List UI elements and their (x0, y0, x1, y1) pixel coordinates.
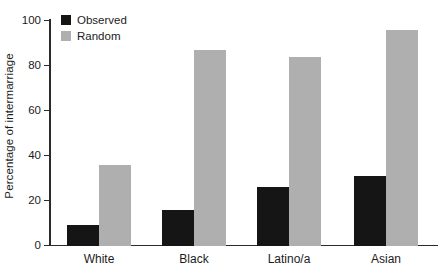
x-category-label-asian: Asian (341, 252, 431, 266)
y-tick-label-20: 20 (11, 194, 41, 207)
legend-item-random: Random (61, 30, 127, 42)
legend-label-observed: Observed (77, 14, 127, 26)
legend-label-random: Random (77, 30, 120, 42)
y-tick-label-80: 80 (11, 59, 41, 72)
y-tick-label-40: 40 (11, 149, 41, 162)
y-tick-60 (44, 110, 49, 111)
y-tick-label-60: 60 (11, 104, 41, 117)
x-category-label-white: White (54, 252, 144, 266)
y-tick-label-0: 0 (11, 239, 41, 252)
bar-random-latino-a (289, 57, 321, 246)
bar-observed-white (67, 225, 99, 245)
y-tick-100 (44, 20, 49, 21)
bar-random-black (194, 50, 226, 246)
y-tick-80 (44, 65, 49, 66)
y-tick-40 (44, 155, 49, 156)
bar-observed-latino-a (257, 187, 289, 246)
legend: Observed Random (61, 14, 127, 46)
y-tick-20 (44, 200, 49, 201)
bar-chart-figure: Percentage of intermarriage 020406080100… (0, 0, 445, 276)
bar-observed-black (162, 210, 194, 246)
legend-swatch-random (61, 31, 71, 41)
x-category-label-latino-a: Latino/a (244, 252, 334, 266)
y-axis-line (49, 19, 51, 246)
bar-random-asian (386, 30, 418, 246)
y-tick-label-100: 100 (11, 14, 41, 27)
legend-item-observed: Observed (61, 14, 127, 26)
x-category-label-black: Black (149, 252, 239, 266)
bar-observed-asian (354, 176, 386, 246)
bar-random-white (99, 165, 131, 246)
legend-swatch-observed (61, 15, 71, 25)
y-tick-0 (44, 245, 49, 246)
